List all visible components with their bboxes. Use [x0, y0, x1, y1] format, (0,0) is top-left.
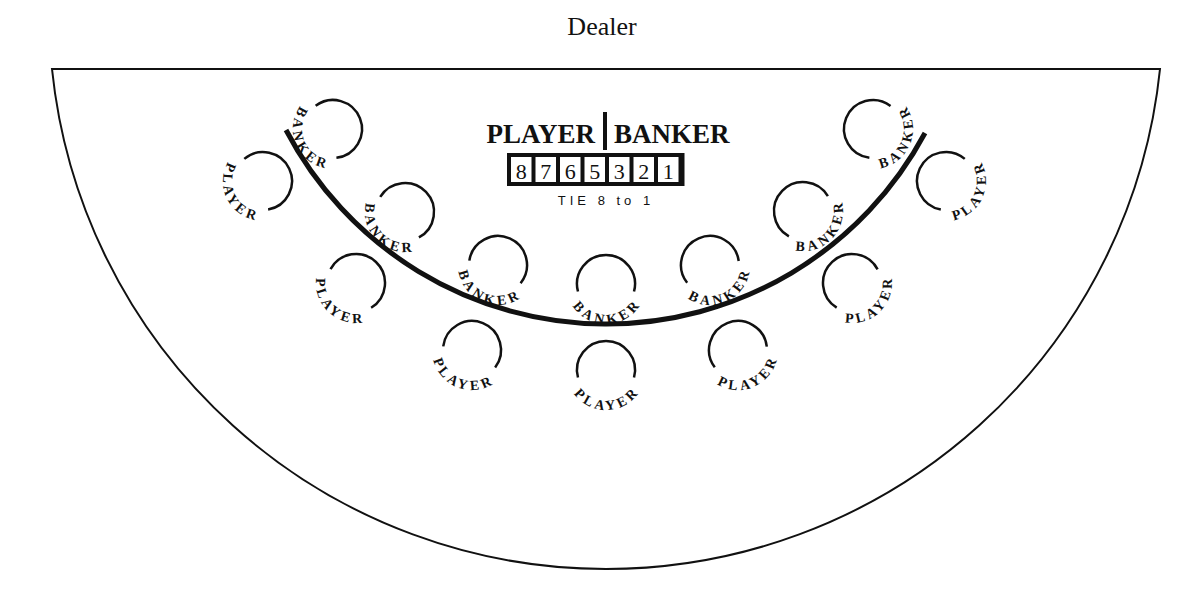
- title-divider: [603, 112, 607, 150]
- banker-spot-label: BANKER: [795, 201, 846, 253]
- player-spot-circle[interactable]: [823, 254, 878, 308]
- banker-spot-label: BANKER: [362, 203, 413, 255]
- tie-number: 2: [638, 159, 649, 184]
- player-spot-label: PLAYER: [844, 278, 894, 326]
- player-betting-spot[interactable]: PLAYER: [313, 254, 385, 326]
- tie-number: 6: [565, 159, 576, 184]
- banker-spot-label: BANKER: [686, 268, 752, 308]
- player-betting-spot[interactable]: PLAYER: [823, 254, 895, 326]
- player-betting-spot[interactable]: PLAYER: [572, 341, 641, 413]
- banker-spot-circle[interactable]: [681, 236, 739, 283]
- player-betting-spot[interactable]: PLAYER: [431, 321, 501, 393]
- tie-numbers-box: 8765321: [507, 153, 685, 186]
- tie-number: 8: [516, 159, 527, 184]
- player-spot-circle[interactable]: [244, 152, 292, 210]
- player-spot-label: PLAYER: [313, 278, 363, 326]
- player-betting-spot[interactable]: PLAYER: [709, 321, 780, 393]
- center-panel: PLAYER BANKER 8765321 TIE 8 to 1: [486, 112, 730, 208]
- player-betting-spot[interactable]: PLAYER: [220, 152, 292, 223]
- tie-payout-label: TIE 8 to 1: [558, 193, 654, 208]
- player-betting-spot[interactable]: PLAYER: [917, 152, 989, 223]
- banker-spot-circle[interactable]: [577, 255, 635, 292]
- player-spots: PLAYERPLAYERPLAYERPLAYERPLAYERPLAYERPLAY…: [220, 152, 989, 413]
- banker-spot-circle[interactable]: [844, 100, 891, 158]
- banker-spot-circle[interactable]: [774, 182, 828, 236]
- player-spot-label: PLAYER: [950, 161, 989, 223]
- tie-number: 7: [540, 159, 551, 184]
- player-spot-label: PLAYER: [716, 355, 780, 393]
- player-spot-circle[interactable]: [577, 341, 635, 378]
- player-title: PLAYER: [486, 119, 595, 149]
- player-spot-circle[interactable]: [443, 321, 501, 367]
- banker-spot-circle[interactable]: [469, 236, 527, 283]
- player-spot-circle[interactable]: [709, 321, 767, 367]
- baccarat-table: PLAYER BANKER 8765321 TIE 8 to 1 BANKERB…: [0, 0, 1204, 598]
- player-spot-circle[interactable]: [331, 254, 385, 308]
- player-spot-label: PLAYER: [220, 161, 259, 223]
- player-spot-label: PLAYER: [431, 356, 495, 393]
- tie-number: 3: [614, 159, 625, 184]
- banker-spot-label: BANKER: [456, 268, 522, 308]
- tie-number: 1: [663, 159, 674, 184]
- banker-betting-spot[interactable]: BANKER: [290, 100, 362, 171]
- banker-betting-spot[interactable]: BANKER: [362, 183, 434, 255]
- banker-spot-label: BANKER: [290, 105, 329, 172]
- banker-title: BANKER: [614, 119, 730, 149]
- banker-betting-spot[interactable]: BANKER: [844, 100, 916, 171]
- player-spot-circle[interactable]: [917, 152, 965, 210]
- tie-number: 5: [589, 159, 600, 184]
- banker-spot-circle[interactable]: [380, 183, 434, 237]
- banker-spot-circle[interactable]: [316, 100, 362, 158]
- banker-betting-spot[interactable]: BANKER: [570, 255, 642, 327]
- player-spot-label: PLAYER: [572, 385, 641, 413]
